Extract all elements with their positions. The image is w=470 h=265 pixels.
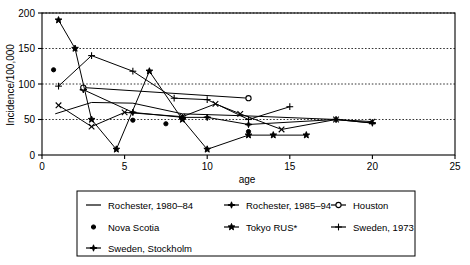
- legend-label-5: Sweden, 1973: [353, 222, 414, 233]
- legend-label-4: Tokyo RUS*: [246, 222, 298, 233]
- xtick-label-5: 5: [122, 161, 128, 172]
- series-3-pt-2-filled-circle-marker: [164, 122, 168, 126]
- ytick-label-0: 0: [29, 150, 35, 161]
- legend-2-open-circle-marker: [336, 202, 341, 207]
- y-axis-title: Incidence/100,000: [5, 44, 16, 126]
- incidence-by-age-figure: 0510152025050100150200 Incidence/100,000…: [0, 0, 470, 265]
- legend-label-1: Rochester, 1985–94: [246, 200, 331, 211]
- series-2-pt-1-open-circle-marker: [246, 96, 251, 101]
- legend-label-0: Rochester, 1980–84: [108, 200, 193, 211]
- xtick-label-15: 15: [284, 161, 296, 172]
- x-axis-title: age: [239, 174, 256, 185]
- legend-label-6: Sweden, Stockholm: [108, 243, 192, 254]
- xtick-label-10: 10: [202, 161, 214, 172]
- ytick-label-150: 150: [18, 43, 35, 54]
- ytick-label-200: 200: [18, 8, 35, 19]
- legend-label-3: Nova Scotia: [108, 222, 160, 233]
- xtick-label-20: 20: [367, 161, 379, 172]
- legend-3-filled-circle-marker: [91, 225, 95, 229]
- xtick-label-25: 25: [449, 161, 461, 172]
- ytick-label-50: 50: [24, 114, 36, 125]
- xtick-label-0: 0: [39, 161, 45, 172]
- series-3-pt-1-filled-circle-marker: [131, 118, 135, 122]
- series-3-pt-0-filled-circle-marker: [51, 68, 55, 72]
- ytick-label-100: 100: [18, 79, 35, 90]
- legend-label-2: Houston: [353, 200, 388, 211]
